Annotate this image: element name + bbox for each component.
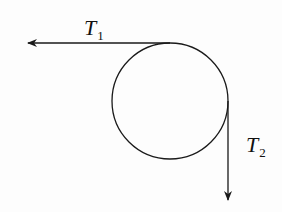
pulley-circle (112, 43, 228, 159)
label-t2: T2 (246, 132, 266, 160)
label-t1: T1 (84, 15, 104, 43)
pulley-diagram: T1 T2 (0, 0, 282, 212)
diagram-svg: T1 T2 (0, 0, 282, 212)
